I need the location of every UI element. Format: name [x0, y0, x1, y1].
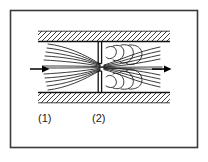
orifice-flow-figure: (1) (2)	[0, 0, 208, 162]
station-label-2: (2)	[92, 112, 105, 124]
station-label-1: (1)	[38, 112, 51, 124]
figure-canvas: (1) (2)	[0, 0, 208, 162]
